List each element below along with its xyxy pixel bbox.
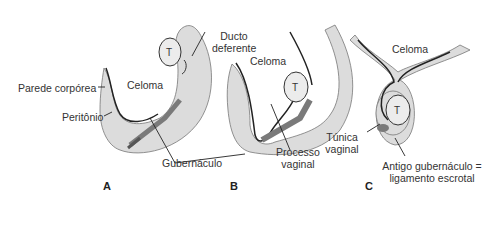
testis-label-c: T xyxy=(394,105,400,116)
label-antigo-line1: Antigo gubernáculo = xyxy=(377,160,487,172)
panel-label-c: C xyxy=(365,180,373,192)
testis-label-a: T xyxy=(166,47,172,58)
label-ducto-line2: deferente xyxy=(212,42,256,54)
label-celoma-b: Celoma xyxy=(250,55,286,67)
panel-label-a: A xyxy=(103,180,111,192)
label-ducto-deferente: Ducto deferente xyxy=(212,30,256,54)
label-parede-corporea: Parede corpórea xyxy=(18,82,96,94)
label-processo-line1: Processo xyxy=(272,146,324,158)
label-tunica-line1: Túnica xyxy=(320,131,364,143)
label-tunica-vaginal: Túnica vaginal xyxy=(320,131,364,155)
label-antigo-gubernaculo: Antigo gubernáculo = ligamento escrotal xyxy=(377,160,487,184)
label-processo-line2: vaginal xyxy=(272,158,324,170)
label-antigo-line2: ligamento escrotal xyxy=(377,172,487,184)
testis-label-b: T xyxy=(292,82,298,93)
label-peritonio: Peritônio xyxy=(62,111,103,123)
label-ducto-line1: Ducto xyxy=(212,30,256,42)
label-gubernaculo: Gubernáculo xyxy=(162,157,222,169)
panel-label-b: B xyxy=(230,180,238,192)
label-celoma-a: Celoma xyxy=(127,79,163,91)
label-processo-vaginal: Processo vaginal xyxy=(272,146,324,170)
label-tunica-line2: vaginal xyxy=(320,143,364,155)
label-celoma-c: Celoma xyxy=(392,43,428,55)
